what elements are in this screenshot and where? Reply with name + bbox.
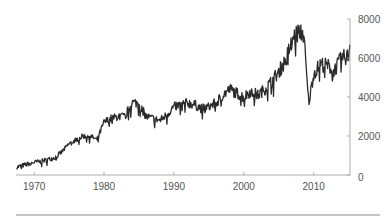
y-tick-label: 0 [358, 172, 364, 183]
x-tick-label: 1980 [93, 181, 116, 192]
data-series-line [17, 25, 350, 170]
y-tick-label: 8000 [358, 14, 381, 25]
y-tick-label: 6000 [358, 53, 381, 64]
plot-area [17, 25, 350, 170]
y-tick-label: 4000 [358, 92, 381, 103]
x-tick-label: 2010 [303, 181, 326, 192]
x-tick-label: 1970 [23, 181, 46, 192]
x-axis: 19701980199020002010 [16, 172, 350, 192]
x-tick-label: 2000 [233, 181, 256, 192]
x-tick-label: 1990 [163, 181, 186, 192]
y-tick-label: 2000 [358, 131, 381, 142]
line-chart: 19701980199020002010 02000400060008000 [0, 0, 391, 217]
y-axis: 02000400060008000 [347, 14, 381, 183]
